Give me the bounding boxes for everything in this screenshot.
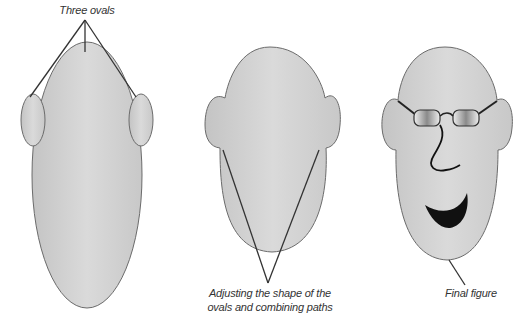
left-ear-oval [21,94,45,146]
leader-line-final [449,260,465,285]
three-ovals-figure [21,20,153,308]
label-three-ovals: Three ovals [55,3,119,17]
illustration-canvas [0,0,517,315]
final-figure [382,47,512,285]
label-adjusting: Adjusting the shape of the ovals and com… [205,286,335,314]
combined-path-figure [205,47,340,283]
label-adjusting-line2: ovals and combining paths [205,300,335,314]
right-ear-oval [129,94,153,146]
combined-head-path [205,47,340,252]
final-head-path [382,47,512,260]
label-final-figure: Final figure [436,286,506,300]
label-adjusting-line1: Adjusting the shape of the [205,286,335,300]
